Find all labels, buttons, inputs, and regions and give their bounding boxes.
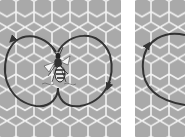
waggle-dance-panel [0, 0, 121, 137]
direction-arrow-icon [12, 38, 14, 40]
round-dance-panel [135, 0, 185, 137]
